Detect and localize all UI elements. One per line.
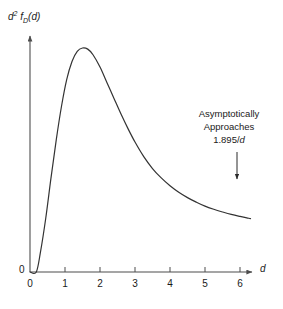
x-tick-label-6: 6 [233,279,247,289]
chart-figure: d2 fD(d) 0 0 1 2 3 4 5 6 d Asymptoticall… [0,0,283,309]
chart-plot-area [0,0,283,309]
x-axis-ticks [65,267,240,272]
annotation-line-2: Approaches [186,121,272,134]
y-axis-origin-label: 0 [19,265,25,275]
x-tick-label-4: 4 [163,279,177,289]
x-tick-label-5: 5 [198,279,212,289]
x-tick-label-2: 2 [93,279,107,289]
y-axis-title: d2 fD(d) [8,10,40,24]
y-axis-title-arg: (d) [28,11,40,22]
annotation-value-prefix: 1.895/ [213,134,239,145]
asymptote-annotation: Asymptotically Approaches 1.895/d [186,108,272,146]
x-tick-label-3: 3 [128,279,142,289]
y-axis-title-exponent: 2 [14,10,18,17]
x-tick-label-1: 1 [58,279,72,289]
annotation-value-variable: d [240,134,245,145]
annotation-line-3: 1.895/d [186,134,272,147]
x-tick-label-0: 0 [23,279,37,289]
data-curve-series-0 [30,48,251,274]
x-axis-title: d [260,264,266,274]
annotation-line-1: Asymptotically [186,108,272,121]
